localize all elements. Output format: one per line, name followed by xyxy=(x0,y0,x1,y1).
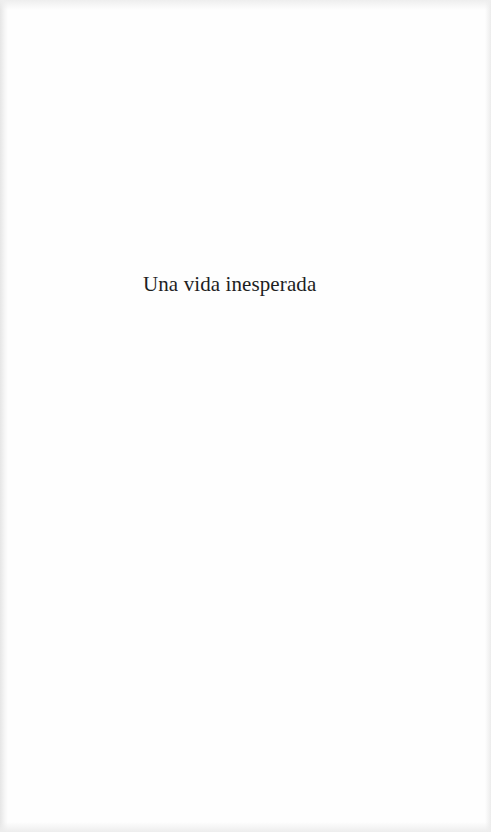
page-left-edge-shadow xyxy=(0,0,8,832)
page-right-edge-shadow xyxy=(485,0,491,832)
page-bottom-edge-shadow xyxy=(0,822,491,832)
half-title: Una vida inesperada xyxy=(143,271,316,297)
page-top-edge-shadow xyxy=(0,0,491,10)
book-page: Una vida inesperada xyxy=(0,0,491,832)
